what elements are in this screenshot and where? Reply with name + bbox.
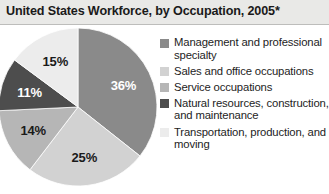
legend-swatch [160,39,169,48]
pie-slice-value-label: 11% [17,85,42,100]
legend-swatch [160,83,169,92]
legend-swatch [160,67,169,76]
legend-item: Management and professional specialty [160,36,329,61]
pie-svg: 36%25%14%11%15% [0,25,160,194]
legend-item-label: Transportation, production, and moving [174,126,329,151]
title-band: United States Workforce, by Occupation, … [0,0,329,25]
legend-swatch [160,99,169,108]
legend-item: Transportation, production, and moving [160,126,329,151]
legend-item-label: Sales and office occupations [174,65,313,78]
legend-item: Service occupations [160,81,329,94]
pie-slice-value-label: 15% [43,54,69,69]
pie-chart-figure: United States Workforce, by Occupation, … [0,0,329,194]
pie-slice-value-label: 36% [111,78,137,93]
chart-legend: Management and professional specialtySal… [160,36,329,154]
legend-item: Natural resources, construction, and mai… [160,97,329,122]
legend-item-label: Management and professional specialty [174,36,329,61]
chart-title: United States Workforce, by Occupation, … [6,4,280,18]
legend-item-label: Service occupations [174,81,272,94]
legend-item: Sales and office occupations [160,65,329,78]
pie-slice-value-label: 14% [20,123,46,138]
legend-item-label: Natural resources, construction, and mai… [174,97,329,122]
pie-slice-value-label: 25% [72,150,98,165]
legend-swatch [160,128,169,137]
pie-plot-area: 36%25%14%11%15% [0,25,160,194]
